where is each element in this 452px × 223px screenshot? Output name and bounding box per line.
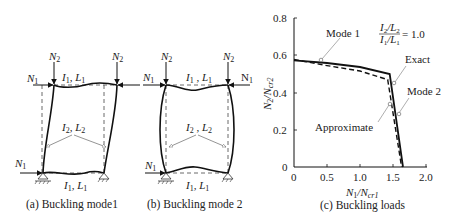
caption-a: (a) Buckling mode1 xyxy=(26,198,118,211)
label-n1-bottom: N1 xyxy=(14,157,26,171)
ytick: 0.8 xyxy=(273,12,287,24)
roller-support-icon xyxy=(158,173,174,184)
xtick: 0 xyxy=(291,171,297,183)
caption-c: (c) Buckling loads xyxy=(320,199,405,212)
x-axis-label: N1/Ncr1 xyxy=(345,186,378,200)
figure: N2 N2 N1 N1 I1, L1 I2, L2 I1, L1 (a) Buc… xyxy=(0,0,452,223)
annotation-mode-2: Mode 2 xyxy=(407,85,441,97)
pin-support-icon xyxy=(222,173,233,182)
panel-a-buckling-mode-1: N2 N2 N1 N1 I1, L1 I2, L2 I1, L1 (a) Buc… xyxy=(14,50,140,211)
xtick: 2.0 xyxy=(419,171,433,183)
ytick: 0.4 xyxy=(273,87,287,99)
label-n1-top-left: N1 xyxy=(142,71,154,85)
ytick: 0.6 xyxy=(273,49,287,61)
label-column: I2, L2 xyxy=(61,121,85,135)
y-axis-label: N2/Ncr2 xyxy=(261,78,275,111)
caption-b: (b) Buckling mode 2 xyxy=(147,198,243,211)
svg-text:I1/L1: I1/L1 xyxy=(379,33,400,47)
label-n2-left: N2 xyxy=(160,50,172,64)
panel-c-buckling-loads-chart: 0.8 0.6 0.4 0.2 0 0 0.5 1.0 1.5 2.0 N1/N… xyxy=(261,12,441,212)
panel-b-buckling-mode-2: N2 N2 N1 N1 N1 I1 , L1 I2 , L2 I1, L1 (b… xyxy=(142,50,253,211)
annotation-mode-1: Mode 1 xyxy=(326,27,360,39)
annotation-approximate: Approximate xyxy=(315,121,373,133)
label-n1-bottom: N1 xyxy=(144,159,156,173)
roller-support-icon xyxy=(35,173,51,184)
xtick: 0.5 xyxy=(320,171,334,183)
ytick: 0.2 xyxy=(273,124,287,136)
series-exact xyxy=(294,60,403,167)
label-n1-top-right: N1 xyxy=(241,71,253,85)
label-n2-right: N2 xyxy=(222,50,234,64)
ytick: 0 xyxy=(282,161,288,173)
label-column: I2 , L2 xyxy=(185,121,212,135)
label-n1-top: N1 xyxy=(26,72,38,86)
annotation-exact: Exact xyxy=(405,53,430,65)
xtick: 1.5 xyxy=(386,171,400,183)
label-beam-top: I1 , L1 xyxy=(185,71,212,85)
label-n2-right: N2 xyxy=(111,50,123,64)
xtick: 1.0 xyxy=(353,171,367,183)
svg-text:= 1.0: = 1.0 xyxy=(402,28,425,40)
label-beam-bottom: I1, L1 xyxy=(63,179,87,193)
label-beam-bottom: I1, L1 xyxy=(185,179,209,193)
label-beam-top: I1, L1 xyxy=(61,71,85,85)
pin-support-icon xyxy=(98,173,109,182)
series-approximate xyxy=(294,60,402,168)
label-n2-left: N2 xyxy=(48,50,60,64)
stiffness-ratio-annotation: I2/L2 I1/L1 = 1.0 xyxy=(379,21,425,47)
